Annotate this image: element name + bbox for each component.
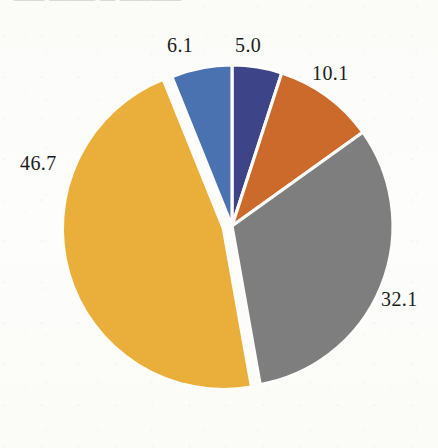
pie-label-32-1: 32.1 [381, 288, 418, 311]
pie-label-46-7: 46.7 [20, 152, 57, 175]
pie-label-10-1: 10.1 [312, 62, 349, 85]
pie-chart-figure: —— ——— — ———— 46.7 6.1 5.0 10.1 32.1 [0, 0, 438, 448]
pie-chart-graphic [0, 0, 438, 448]
pie-label-5-0: 5.0 [235, 34, 261, 57]
pie-label-6-1: 6.1 [167, 34, 193, 57]
pie-slices-group [62, 65, 393, 389]
